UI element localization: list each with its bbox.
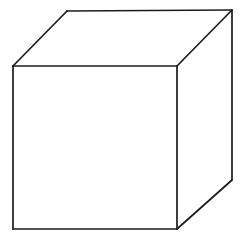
figure-canvas [0,0,246,241]
edge-back-top [67,10,232,11]
cube-face-front [13,66,177,229]
cube-diagram [0,0,246,241]
